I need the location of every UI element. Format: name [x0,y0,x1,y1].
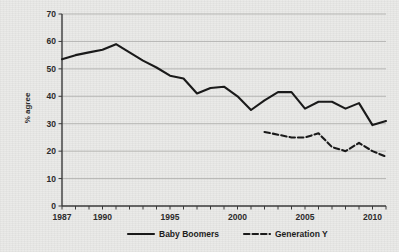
x-tick-label: 1987 [53,212,72,222]
chart-legend: Baby BoomersGeneration Y [128,229,328,239]
y-axis-title: % agree [23,92,32,123]
y-tick-label: 60 [47,36,57,46]
x-tick-labels: 198719901995200020052010 [53,212,383,222]
y-tick-labels: 010203040506070 [47,9,57,211]
line-chart: 010203040506070 198719901995200020052010… [0,0,399,252]
y-tick-label: 40 [47,91,57,101]
y-tick-label: 70 [47,9,57,19]
y-axis-title-text: % agree [23,92,32,123]
x-tick-label: 2010 [363,212,382,222]
y-tick-label: 20 [47,146,57,156]
y-tick-label: 0 [51,201,56,211]
legend-label-baby-boomers: Baby Boomers [159,229,219,239]
series-line-baby-boomers [62,44,386,125]
legend-label-generation-y: Generation Y [275,229,328,239]
y-tick-label: 50 [47,64,57,74]
chart-canvas: 010203040506070 198719901995200020052010… [0,0,399,252]
x-tick-label: 2005 [296,212,315,222]
axis-lines [62,14,386,206]
data-series [62,44,386,156]
y-tick-label: 10 [47,174,57,184]
x-tick-label: 1990 [93,212,112,222]
y-tick-label: 30 [47,119,57,129]
axis-ticks [59,14,387,210]
x-tick-label: 1995 [161,212,180,222]
x-tick-label: 2000 [228,212,247,222]
series-line-generation-y [265,132,387,157]
gridlines [62,14,386,179]
